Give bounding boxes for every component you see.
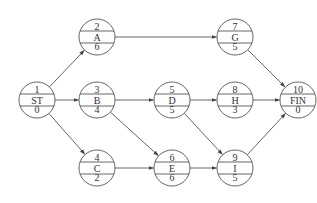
edge-D-I [184, 113, 222, 154]
node-C: 4C2 [79, 150, 115, 186]
node-bottom-label: 0 [35, 104, 40, 115]
node-top-label: 8 [233, 84, 238, 95]
node-bottom-label: 5 [233, 172, 238, 183]
edge-ST-C [49, 113, 85, 154]
node-bottom-label: 2 [95, 172, 100, 183]
node-top-label: 6 [170, 152, 175, 163]
edge-G-FIN [248, 50, 285, 87]
node-top-label: 3 [95, 84, 100, 95]
edge-B-E [110, 112, 158, 155]
node-A: 2A6 [79, 19, 115, 55]
node-E: 6E6 [154, 150, 190, 186]
node-bottom-label: 0 [296, 104, 301, 115]
node-B: 3B4 [79, 82, 115, 118]
node-bottom-label: 6 [170, 172, 175, 183]
node-G: 7G5 [217, 19, 253, 55]
node-H: 8H3 [217, 82, 253, 118]
node-top-label: 2 [95, 21, 100, 32]
node-top-label: 4 [95, 152, 100, 163]
node-I: 9I5 [217, 150, 253, 186]
edge-ST-A [49, 50, 84, 87]
node-ST: 1ST0 [19, 82, 55, 118]
node-top-label: 1 [35, 84, 40, 95]
node-bottom-label: 3 [233, 104, 238, 115]
node-top-label: 5 [170, 84, 175, 95]
node-FIN: 10FIN0 [280, 82, 316, 118]
edge-I-FIN [247, 114, 285, 155]
node-bottom-label: 4 [95, 104, 100, 115]
node-bottom-label: 6 [95, 41, 100, 52]
node-top-label: 7 [233, 21, 238, 32]
network-diagram: 1ST02A63B44C25D56E67G58H39I510FIN0 [0, 0, 317, 203]
edges-layer: 1ST02A63B44C25D56E67G58H39I510FIN0 [0, 0, 317, 203]
node-top-label: 9 [233, 152, 238, 163]
node-bottom-label: 5 [170, 104, 175, 115]
node-D: 5D5 [154, 82, 190, 118]
node-top-label: 10 [293, 84, 303, 95]
node-bottom-label: 5 [233, 41, 238, 52]
